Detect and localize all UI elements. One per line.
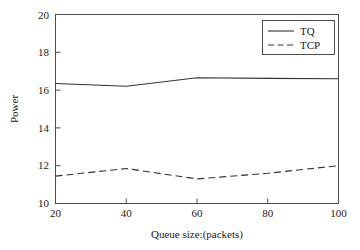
x-tick-label: 60: [192, 207, 204, 219]
x-axis-title: Queue size:(packets): [151, 228, 243, 241]
y-tick-label: 18: [38, 46, 50, 58]
y-tick-label: 12: [38, 159, 49, 171]
y-tick-label: 16: [38, 84, 50, 96]
chart-figure: 10 12 14 16 18 20 20 40 60 80 100 Queue …: [0, 0, 360, 250]
line-chart: 10 12 14 16 18 20 20 40 60 80 100 Queue …: [0, 0, 360, 250]
x-tick-label: 20: [50, 207, 62, 219]
x-tick-label: 80: [262, 207, 274, 219]
y-axis-tick-labels: 10 12 14 16 18 20: [38, 9, 50, 209]
y-axis-title: Power: [8, 95, 20, 123]
y-tick-label: 20: [38, 9, 50, 21]
y-tick-label: 14: [38, 122, 50, 134]
series-line-tcp: [56, 166, 339, 179]
x-axis-tick-labels: 20 40 60 80 100: [50, 207, 347, 219]
x-tick-label: 40: [121, 207, 133, 219]
chart-legend: TQ TCP: [263, 21, 335, 55]
y-tick-label: 10: [38, 197, 50, 209]
legend-box: [263, 21, 335, 55]
x-axis-ticks: [56, 199, 339, 204]
series-line-tq: [56, 78, 339, 87]
x-tick-label: 100: [330, 207, 347, 219]
legend-label-tq: TQ: [300, 25, 315, 37]
legend-label-tcp: TCP: [300, 39, 320, 51]
